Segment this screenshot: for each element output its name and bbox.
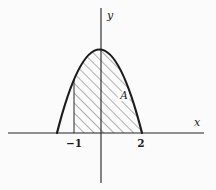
region-area-label: A xyxy=(119,89,128,101)
parabola-area-diagram: y x −1 2 A xyxy=(0,0,216,190)
tick-label-2: 2 xyxy=(137,137,144,149)
x-axis-label: x xyxy=(194,116,201,129)
tick-label-neg-1: −1 xyxy=(66,137,82,149)
figure-canvas: y x −1 2 A xyxy=(0,0,216,190)
y-axis-label: y xyxy=(106,9,114,22)
